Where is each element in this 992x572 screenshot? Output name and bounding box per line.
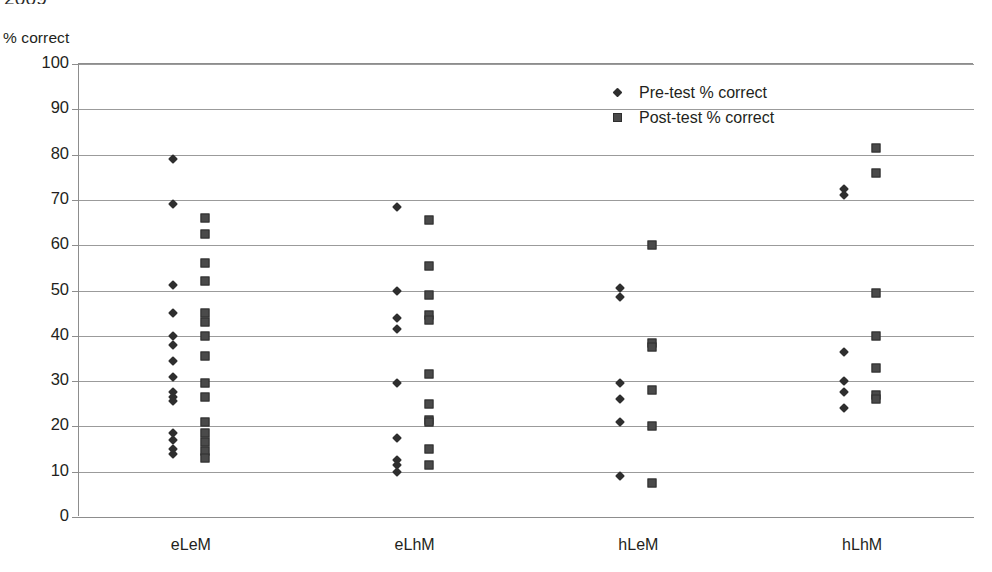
y-axis-label: 30 <box>15 370 69 389</box>
pre-test-data-point <box>839 376 849 386</box>
post-test-data-point <box>424 445 433 454</box>
post-test-data-point <box>200 429 209 438</box>
post-test-data-point <box>200 331 209 340</box>
pre-test-data-point <box>168 340 178 350</box>
pre-test-data-point <box>615 378 625 388</box>
y-axis-label: 50 <box>15 280 69 299</box>
gridline <box>79 109 974 110</box>
post-test-data-point <box>424 291 433 300</box>
x-axis-label-hLhM: hLhM <box>782 536 942 554</box>
x-axis-label-eLeM: eLeM <box>111 536 271 554</box>
legend-label-pre-test: Pre-test % correct <box>630 84 767 102</box>
post-test-data-point <box>648 386 657 395</box>
legend-item-pre-test: Pre-test % correct <box>604 80 774 105</box>
pre-test-data-point <box>615 394 625 404</box>
post-test-data-point <box>200 379 209 388</box>
post-test-data-point <box>200 352 209 361</box>
post-test-data-point <box>200 309 209 318</box>
x-axis-label-hLeM: hLeM <box>558 536 718 554</box>
post-test-data-point <box>200 438 209 447</box>
post-test-data-point <box>200 259 209 268</box>
y-axis-tick <box>72 517 79 518</box>
y-axis-tick <box>72 64 79 65</box>
gridline <box>79 472 974 473</box>
gridline <box>79 517 974 518</box>
y-axis-tick <box>72 426 79 427</box>
post-test-data-point <box>200 277 209 286</box>
y-axis-label: 60 <box>15 234 69 253</box>
post-test-data-point <box>872 395 881 404</box>
pre-test-data-point <box>392 467 402 477</box>
pre-test-data-point <box>839 347 849 357</box>
y-axis-label: 20 <box>15 415 69 434</box>
x-axis-label-eLhM: eLhM <box>335 536 495 554</box>
post-test-data-point <box>424 399 433 408</box>
gridline <box>79 245 974 246</box>
post-test-data-point <box>424 216 433 225</box>
y-axis-tick <box>72 200 79 201</box>
post-test-data-point <box>648 343 657 352</box>
post-test-data-point <box>424 370 433 379</box>
pre-test-data-point <box>392 202 402 212</box>
plot-area: 1009080706050403020100eLeMeLhMhLeMhLhM <box>78 63 973 516</box>
y-axis-label: 40 <box>15 325 69 344</box>
y-axis-label: 90 <box>15 98 69 117</box>
gridline <box>79 155 974 156</box>
post-test-data-point <box>424 417 433 426</box>
y-axis-tick <box>72 109 79 110</box>
pre-test-data-point <box>392 433 402 443</box>
chart-page: 2009 % correct 1009080706050403020100eLe… <box>0 0 992 572</box>
post-test-data-point <box>200 229 209 238</box>
pre-test-data-point <box>392 378 402 388</box>
y-axis-label: 80 <box>15 144 69 163</box>
y-axis-tick <box>72 336 79 337</box>
gridline <box>79 64 974 65</box>
legend-label-post-test: Post-test % correct <box>630 109 774 127</box>
pre-test-data-point <box>839 190 849 200</box>
post-test-data-point <box>424 460 433 469</box>
pre-test-data-point <box>839 387 849 397</box>
square-marker-icon <box>604 113 630 122</box>
y-axis-tick <box>72 381 79 382</box>
pre-test-data-point <box>615 292 625 302</box>
post-test-data-point <box>200 318 209 327</box>
y-axis-label: 100 <box>15 53 69 72</box>
pre-test-data-point <box>615 471 625 481</box>
y-axis-tick <box>72 245 79 246</box>
clipped-header-text: 2009 <box>4 0 47 4</box>
y-axis-label: 70 <box>15 189 69 208</box>
y-axis-tick <box>72 155 79 156</box>
gridline <box>79 200 974 201</box>
gridline <box>79 426 974 427</box>
y-axis-label: 0 <box>15 506 69 525</box>
post-test-data-point <box>424 315 433 324</box>
pre-test-data-point <box>392 286 402 296</box>
post-test-data-point <box>872 168 881 177</box>
post-test-data-point <box>200 454 209 463</box>
post-test-data-point <box>200 417 209 426</box>
y-axis-tick <box>72 291 79 292</box>
gridline <box>79 291 974 292</box>
post-test-data-point <box>872 143 881 152</box>
gridline <box>79 336 974 337</box>
post-test-data-point <box>872 331 881 340</box>
pre-test-data-point <box>168 372 178 382</box>
legend-item-post-test: Post-test % correct <box>604 105 774 130</box>
diamond-marker-icon <box>604 89 630 96</box>
pre-test-data-point <box>615 417 625 427</box>
post-test-data-point <box>200 392 209 401</box>
pre-test-data-point <box>168 280 178 290</box>
pre-test-data-point <box>168 356 178 366</box>
chart-legend: Pre-test % correct Post-test % correct <box>604 80 774 130</box>
post-test-data-point <box>872 288 881 297</box>
post-test-data-point <box>872 363 881 372</box>
post-test-data-point <box>200 214 209 223</box>
pre-test-data-point <box>839 403 849 413</box>
post-test-data-point <box>648 422 657 431</box>
post-test-data-point <box>648 241 657 250</box>
pre-test-data-point <box>392 324 402 334</box>
y-axis-title: % correct <box>3 29 69 47</box>
pre-test-data-point <box>168 154 178 164</box>
y-axis-tick <box>72 472 79 473</box>
pre-test-data-point <box>168 308 178 318</box>
